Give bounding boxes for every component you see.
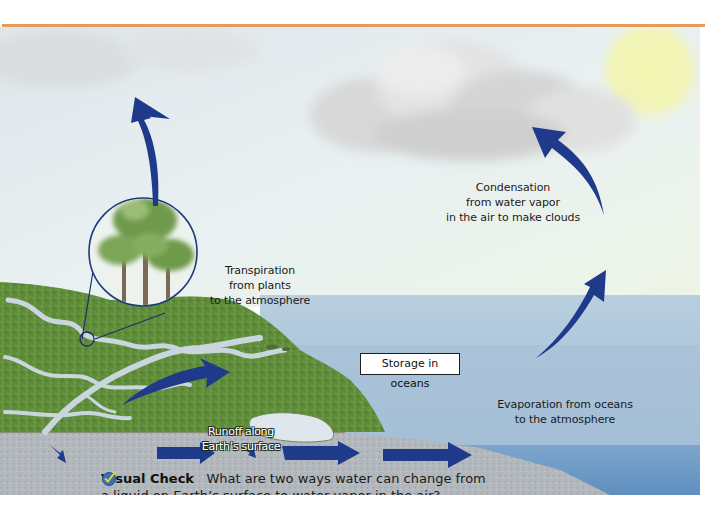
storage-in-oceans-label: Storage in oceans [360,353,460,375]
evaporation-label: Evaporation from oceans to the atmospher… [490,397,640,427]
visual-check-question: Visual Check What are two ways water can… [101,470,521,495]
visual-check-question-line2: a liquid on Earth’s surface to water vap… [101,487,521,495]
transpiration-label: Transpiration from plants to the atmosph… [205,263,315,308]
page: Transpiration from plants to the atmosph… [0,0,713,527]
runoff-label: Runoff along Earth’s surface [196,424,286,454]
check-icon [101,470,117,486]
condensation-label: Condensation from water vapor in the air… [438,180,588,225]
water-cycle-scene: Transpiration from plants to the atmosph… [0,27,703,495]
visual-check-question-line1: What are two ways water can change from [206,471,485,486]
